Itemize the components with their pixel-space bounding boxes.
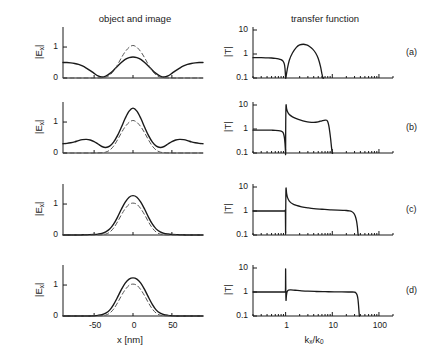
right-xtick-label: 100 [368,320,392,330]
left-xtick-label: 50 [161,320,185,330]
right-yaxis-label: |T| [222,102,233,152]
left-series-object [63,284,203,316]
right-yaxis-label: |T| [222,184,233,234]
right-ytick-label: 10 [230,181,248,191]
left-yaxis-label: |Ex| [33,27,44,77]
panel-label-a: (a) [406,47,417,57]
right-yaxis-label: |T| [222,265,233,315]
left-plot-a [59,26,213,86]
left-ytick-label: 0 [49,229,58,239]
left-ytick-label: 1 [49,116,58,126]
left-series-image [63,108,203,147]
left-series-object [63,203,203,235]
right-ytick-label: 10 [230,262,248,272]
right-ytick-label: 10 [230,99,248,109]
right-ytick-label: 0.1 [230,310,248,320]
left-xaxis-label: x [nm] [60,334,200,345]
right-xtick-label: 1 [275,320,299,330]
left-series-image [63,196,203,235]
right-plot-a [249,26,403,86]
right-ytick-label: 0.1 [230,72,248,82]
right-ytick-label: 1 [230,205,248,215]
right-ytick-label: 0.1 [230,229,248,239]
left-xtick-label: -50 [83,320,107,330]
right-yaxis-label: |T| [222,27,233,77]
right-xaxis-label: kx/k0 [244,334,384,345]
right-plot-c [249,183,403,243]
left-ytick-label: 0 [49,310,58,320]
left-yaxis-label: |Ex| [33,102,44,152]
left-yaxis-label: |Ex| [33,265,44,315]
right-ytick-label: 10 [230,24,248,34]
left-plot-d [59,264,213,324]
left-ytick-label: 1 [49,279,58,289]
left-series-object [63,120,203,153]
left-plot-b [59,101,213,161]
right-series-|T| [253,105,333,155]
right-series-|T| [253,188,358,235]
left-xtick-label: 0 [122,320,146,330]
panel-label-b: (b) [406,122,417,132]
left-series-image [63,57,203,77]
right-xtick-label: 10 [321,320,345,330]
right-ytick-label: 0.1 [230,147,248,157]
right-ytick-label: 1 [230,123,248,133]
right-series-|T| [253,269,359,316]
panel-label-d: (d) [406,285,417,295]
right-plot-b [249,101,403,161]
left-ytick-label: 0 [49,147,58,157]
left-ytick-label: 1 [49,198,58,208]
figure-root: object and image transfer function 01|Ex… [0,0,437,361]
left-column-title: object and image [60,13,210,24]
left-ytick-label: 1 [49,41,58,51]
left-ytick-label: 0 [49,72,58,82]
right-plot-d [249,264,403,324]
left-yaxis-label: |Ex| [33,184,44,234]
right-ytick-label: 1 [230,48,248,58]
right-ytick-label: 1 [230,286,248,296]
left-plot-c [59,183,213,243]
right-series-|T| [253,44,324,78]
left-series-object [63,45,203,78]
panel-label-c: (c) [406,204,417,214]
right-column-title: transfer function [250,13,400,24]
